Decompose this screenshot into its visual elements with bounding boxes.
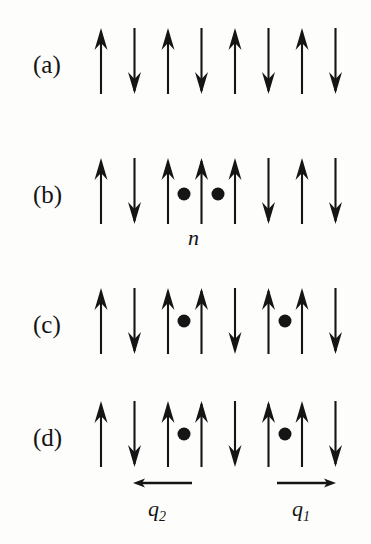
spin-arrow-up [195,288,208,354]
momentum-symbol: q [148,496,159,521]
momentum-arrow-q1 [277,479,336,488]
momentum-subscript: 2 [159,509,166,524]
spin-arrow-up [195,158,208,224]
particle-dot [178,315,191,328]
momentum-label-q2: q2 [148,498,166,524]
particle-dot [178,188,191,201]
spin-arrow-down [329,158,342,224]
spin-arrow-up [296,158,309,224]
spin-arrows-d [0,0,371,120]
momentum-symbol: q [292,496,303,521]
momentum-arrow-q2 [133,479,192,488]
particle-dot [178,428,191,441]
spin-arrow-down [128,288,141,354]
row-label-d: (d) [33,425,62,450]
momentum-label-q1: q1 [292,498,310,524]
site-index-label-n: n [188,227,199,249]
spin-arrow-down [128,158,141,224]
spin-arrow-down [329,288,342,354]
spin-arrow-up [296,288,309,354]
spin-arrow-up [95,158,108,224]
spin-arrow-up [162,158,175,224]
particle-dot [212,188,225,201]
spin-arrow-up [229,158,242,224]
spin-arrow-up [95,288,108,354]
particle-dot [279,315,292,328]
spin-arrow-up [162,288,175,354]
spin-configuration-figure: (a) (b) n (c) (d) q2 q1 [0,0,371,544]
row-label-b: (b) [33,182,62,207]
row-label-c: (c) [33,312,61,337]
spin-arrow-down [262,158,275,224]
momentum-arrows [0,455,371,515]
spin-arrow-up [262,288,275,354]
momentum-subscript: 1 [303,509,310,524]
spin-arrow-down [229,288,242,354]
particle-dot [279,428,292,441]
